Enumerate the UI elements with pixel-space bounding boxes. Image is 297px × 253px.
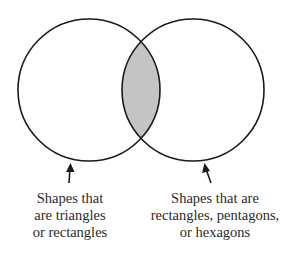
label-line: or hexagons (145, 224, 285, 241)
left-set-label: Shapes that are triangles or rectangles (20, 190, 120, 241)
right-set-label: Shapes that are rectangles, pentagons, o… (145, 190, 285, 241)
label-line: Shapes that are (145, 190, 285, 207)
left-arrow-icon (66, 163, 75, 183)
label-line: Shapes that (20, 190, 120, 207)
venn-diagram: Shapes that are triangles or rectangles … (0, 0, 297, 253)
label-line: rectangles, pentagons, (145, 207, 285, 224)
right-arrow-icon (202, 163, 211, 183)
label-line: or rectangles (20, 224, 120, 241)
label-line: are triangles (20, 207, 120, 224)
